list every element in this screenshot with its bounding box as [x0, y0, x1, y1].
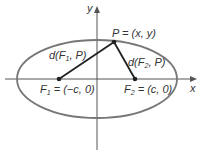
point-p — [112, 40, 117, 45]
distance-2-label: d(F2, P) — [128, 57, 166, 69]
focus-1-label: F1 = (−c, 0) — [40, 84, 95, 96]
y-axis-label: y — [87, 3, 93, 14]
y-axis-arrow-icon — [94, 6, 100, 13]
focus-1-point — [57, 77, 62, 82]
focus-2-point — [133, 77, 138, 82]
x-axis-label: x — [190, 83, 196, 94]
focus-2-label: F2 = (c, 0) — [124, 84, 172, 96]
ellipse-diagram — [0, 0, 205, 154]
point-p-label: P = (x, y) — [112, 28, 156, 39]
distance-1-label: d(F1, P) — [49, 50, 87, 62]
